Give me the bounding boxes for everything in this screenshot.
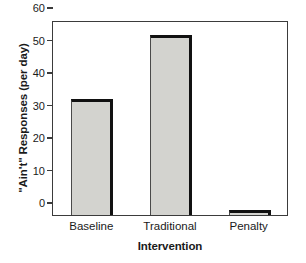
y-axis-tick-label: 30 xyxy=(33,100,47,112)
y-axis-tick: 60 xyxy=(33,2,53,14)
y-axis-tick-mark xyxy=(47,7,53,8)
x-axis-tick-label: Traditional xyxy=(143,220,196,232)
y-axis-title: "Ain't" Responses (per day) xyxy=(14,8,32,228)
y-axis-tick-label: 50 xyxy=(33,35,47,47)
y-axis-tick-label: 0 xyxy=(39,197,47,209)
y-axis-tick-mark xyxy=(47,170,53,171)
y-axis-tick: 40 xyxy=(33,67,53,79)
y-axis-tick: 20 xyxy=(33,132,53,144)
y-axis-tick: 30 xyxy=(33,100,53,112)
bar-chart-figure: "Ain't" Responses (per day) 010203040506… xyxy=(0,0,306,263)
y-axis-tick: 0 xyxy=(39,197,53,209)
y-axis-tick-mark xyxy=(47,72,53,73)
bar-penalty xyxy=(229,210,271,215)
y-axis-tick: 50 xyxy=(33,35,53,47)
y-axis-tick-label: 40 xyxy=(33,67,47,79)
y-axis-tick: 10 xyxy=(33,165,53,177)
x-axis-tick-label: Baseline xyxy=(69,220,113,232)
x-axis-title: Intervention xyxy=(52,240,288,252)
y-axis-tick-label: 60 xyxy=(33,2,47,14)
x-axis-tick-label: Penalty xyxy=(229,220,267,232)
bar-baseline xyxy=(71,99,113,215)
y-axis-tick-label: 10 xyxy=(33,165,47,177)
y-axis-tick-mark xyxy=(47,105,53,106)
plot-area: 0102030405060 xyxy=(52,21,288,216)
y-axis-tick-mark xyxy=(47,40,53,41)
y-axis-tick-mark xyxy=(47,137,53,138)
y-axis-tick-label: 20 xyxy=(33,132,47,144)
y-axis-tick-mark xyxy=(47,202,53,203)
bar-traditional xyxy=(150,35,192,215)
